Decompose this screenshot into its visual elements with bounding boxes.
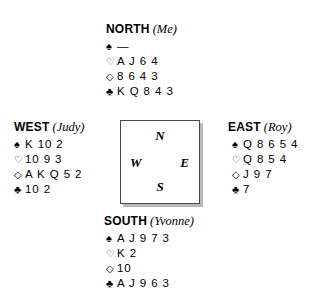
suit-row-diamonds-west: ◇ A K Q 5 2	[14, 167, 84, 182]
suit-row-clubs-east: ♣ 7	[228, 182, 298, 197]
spade-icon: ♠	[106, 231, 117, 246]
hand-west-header: WEST(Judy)	[14, 119, 84, 134]
compass-letter-west: W	[130, 155, 142, 171]
clubs-cards-east: 7	[243, 182, 250, 197]
suit-row-hearts-north: ♡ A J 6 4	[106, 54, 177, 69]
suit-row-diamonds-east: ◇ J 9 7	[228, 167, 298, 182]
player-name-north: (Me)	[153, 22, 177, 36]
compass-box: N W E S	[120, 120, 200, 204]
diamond-icon: ◇	[106, 261, 117, 276]
clubs-cards-south: A J 9 6 3	[117, 276, 170, 291]
club-icon: ♣	[106, 84, 117, 99]
club-icon: ♣	[106, 276, 117, 291]
compass-letter-south: S	[121, 179, 199, 195]
player-name-west: (Judy)	[52, 120, 84, 134]
hand-north-header: NORTH(Me)	[106, 21, 177, 36]
suit-row-hearts-west: ♡ 10 9 3	[14, 152, 84, 167]
heart-icon: ♡	[106, 54, 117, 69]
spades-cards-east: Q 8 6 5 4	[243, 137, 298, 152]
spade-icon: ♠	[232, 137, 243, 152]
heart-icon: ♡	[232, 152, 243, 167]
compass-letter-east: E	[180, 155, 189, 171]
spade-icon: ♠	[106, 39, 117, 54]
suit-row-diamonds-north: ◇ 8 6 4 3	[106, 69, 177, 84]
suit-row-spades-east: ♠ Q 8 6 5 4	[228, 137, 298, 152]
compass-letter-north: N	[121, 128, 199, 144]
suit-row-clubs-north: ♣ K Q 8 4 3	[106, 84, 177, 99]
hand-south-header: SOUTH(Yvonne)	[104, 213, 194, 228]
spades-cards-west: K 10 2	[25, 137, 64, 152]
hearts-cards-north: A J 6 4	[117, 54, 158, 69]
clubs-cards-north: K Q 8 4 3	[117, 84, 174, 99]
diamond-icon: ◇	[14, 167, 25, 182]
spades-cards-south: A J 9 7 3	[117, 231, 170, 246]
diamonds-cards-north: 8 6 4 3	[117, 69, 158, 84]
hearts-cards-south: K 2	[117, 246, 137, 261]
seat-label-north: NORTH	[106, 22, 150, 36]
suit-row-hearts-east: ♡ Q 8 5 4	[228, 152, 298, 167]
hand-south: SOUTH(Yvonne) ♠ A J 9 7 3 ♡ K 2 ◇ 10 ♣ A…	[104, 213, 194, 291]
spade-icon: ♠	[14, 137, 25, 152]
hand-west: WEST(Judy) ♠ K 10 2 ♡ 10 9 3 ◇ A K Q 5 2…	[14, 119, 84, 197]
suit-row-spades-north: ♠ —	[106, 39, 177, 54]
club-icon: ♣	[232, 182, 243, 197]
diamond-icon: ◇	[232, 167, 243, 182]
seat-label-east: EAST	[228, 120, 261, 134]
heart-icon: ♡	[106, 246, 117, 261]
suit-row-spades-south: ♠ A J 9 7 3	[104, 231, 194, 246]
diamonds-cards-west: A K Q 5 2	[25, 167, 82, 182]
diamond-icon: ◇	[106, 69, 117, 84]
club-icon: ♣	[14, 182, 25, 197]
seat-label-west: WEST	[14, 120, 49, 134]
suit-row-clubs-south: ♣ A J 9 6 3	[104, 276, 194, 291]
hand-east: EAST(Roy) ♠ Q 8 6 5 4 ♡ Q 8 5 4 ◇ J 9 7 …	[228, 119, 298, 197]
player-name-south: (Yvonne)	[150, 214, 194, 228]
hearts-cards-west: 10 9 3	[25, 152, 62, 167]
diamonds-cards-east: J 9 7	[243, 167, 272, 182]
suit-row-hearts-south: ♡ K 2	[104, 246, 194, 261]
seat-label-south: SOUTH	[104, 214, 147, 228]
clubs-cards-west: 10 2	[25, 182, 51, 197]
hand-east-header: EAST(Roy)	[228, 119, 298, 134]
player-name-east: (Roy)	[264, 120, 292, 134]
heart-icon: ♡	[14, 152, 25, 167]
suit-row-spades-west: ♠ K 10 2	[14, 137, 84, 152]
suit-row-clubs-west: ♣ 10 2	[14, 182, 84, 197]
spades-cards-north: —	[117, 39, 129, 54]
suit-row-diamonds-south: ◇ 10	[104, 261, 194, 276]
hand-north: NORTH(Me) ♠ — ♡ A J 6 4 ◇ 8 6 4 3 ♣ K Q …	[106, 21, 177, 99]
hearts-cards-east: Q 8 5 4	[243, 152, 287, 167]
diamonds-cards-south: 10	[117, 261, 132, 276]
